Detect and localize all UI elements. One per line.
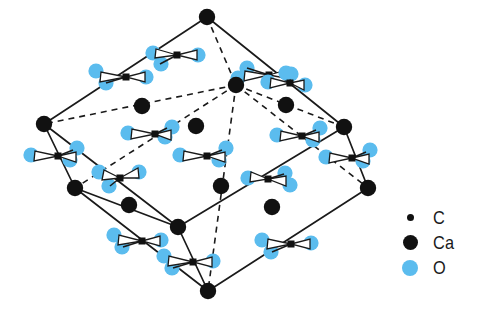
calcium-atom <box>36 116 52 132</box>
calcium-atom <box>170 219 186 235</box>
calcium-atom <box>199 9 215 25</box>
carbon-dot-icon <box>395 214 425 221</box>
cell-edge <box>208 188 368 291</box>
calcium-atom <box>213 178 229 194</box>
figure-canvas: C Ca O <box>0 0 483 314</box>
carbonate-group <box>91 164 146 193</box>
calcium-atom <box>264 199 280 215</box>
legend-label-carbon: C <box>433 208 445 227</box>
carbonate-group <box>145 45 205 71</box>
carbonate-group <box>260 65 312 92</box>
legend: C Ca O <box>395 205 473 280</box>
calcium-atom <box>134 98 150 114</box>
calcium-atom <box>67 180 83 196</box>
legend-label-calcium: Ca <box>433 233 454 252</box>
legend-label-oxygen: O <box>433 258 446 277</box>
carbonate-group <box>318 142 377 168</box>
legend-item-oxygen: O <box>395 255 473 280</box>
carbonate-group <box>269 120 327 147</box>
oxygen-dot-icon <box>395 260 425 276</box>
carbonate-group <box>240 165 297 192</box>
calcium-atom <box>360 180 376 196</box>
cell-edge <box>207 17 344 127</box>
carbonate-group <box>172 140 233 167</box>
legend-item-calcium: Ca <box>395 230 473 255</box>
calcium-atom <box>121 197 137 213</box>
calcium-atom <box>228 77 244 93</box>
legend-item-carbon: C <box>395 205 473 230</box>
calcium-atom <box>188 118 204 134</box>
carbonate-group <box>88 63 153 90</box>
calcium-atom <box>336 119 352 135</box>
calcium-dot-icon <box>395 235 425 250</box>
calcium-atom <box>200 283 216 299</box>
calcium-atom <box>278 97 294 113</box>
